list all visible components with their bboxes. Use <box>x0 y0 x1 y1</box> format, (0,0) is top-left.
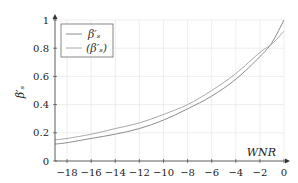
x-tick-labels: −18−16−14−12−10−8−6−4−20 <box>56 159 287 178</box>
line-chart: −18−16−14−12−10−8−6−4−20 00.20.40.60.81 … <box>0 0 298 183</box>
x-tick-label: −18 <box>56 167 77 178</box>
y-tick-label: 0.8 <box>33 43 49 54</box>
y-tick-label: 1 <box>43 15 49 26</box>
x-axis-arrow-icon <box>285 159 290 164</box>
y-tick-label: 0.2 <box>33 127 49 138</box>
x-tick-label: −10 <box>153 167 174 178</box>
x-tick-label: −14 <box>105 167 126 178</box>
y-tick-label: 0.6 <box>33 71 49 82</box>
x-tick-label: −12 <box>129 167 150 178</box>
legend-label-0: β′ₛ <box>87 28 101 41</box>
x-tick-label: −16 <box>81 167 102 178</box>
y-tick-label: 0.4 <box>33 99 49 110</box>
x-tick-label: −2 <box>253 167 268 178</box>
x-tick-label: −4 <box>228 167 243 178</box>
y-axis-arrow-icon <box>53 14 58 19</box>
y-axis-label: β′ₛ <box>14 85 27 99</box>
x-axis-label: WNR <box>247 146 276 159</box>
x-tick-label: 0 <box>281 167 287 178</box>
x-tick-label: −6 <box>204 167 219 178</box>
legend: β′ₛ (β′ₛ) <box>61 24 113 57</box>
legend-label-1: (β′ₛ) <box>86 42 107 55</box>
y-tick-labels: 00.20.40.60.81 <box>33 15 57 167</box>
x-tick-label: −8 <box>180 167 195 178</box>
y-tick-label: 0 <box>43 156 49 167</box>
